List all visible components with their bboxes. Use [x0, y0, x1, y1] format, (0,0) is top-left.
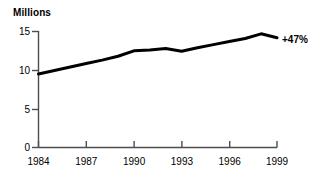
y-tick-label-10: 10: [8, 66, 30, 76]
x-tick-label-1990: 1990: [114, 157, 154, 167]
x-tick-label-1999: 1999: [257, 157, 297, 167]
y-tick-label-15: 15: [8, 27, 30, 37]
line-chart: Millions 15 10 5 0 1984 1987 1990 1993 1…: [0, 0, 322, 182]
growth-annotation: +47%: [282, 35, 308, 45]
data-series-line: [39, 34, 278, 74]
x-tick-label-1996: 1996: [210, 157, 250, 167]
x-tick-label-1984: 1984: [19, 157, 59, 167]
x-tick-label-1993: 1993: [162, 157, 202, 167]
x-tick-label-1987: 1987: [66, 157, 106, 167]
y-tick-label-0: 0: [8, 143, 30, 153]
chart-plot-area: [0, 0, 322, 182]
y-tick-label-5: 5: [8, 105, 30, 115]
